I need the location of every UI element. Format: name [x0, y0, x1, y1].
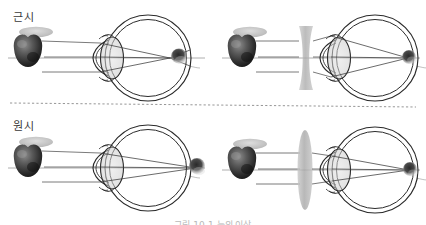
convex-lens	[298, 130, 313, 210]
figure-background	[0, 0, 426, 225]
label-myopia: 근시	[13, 8, 34, 24]
eye-refraction-figure	[0, 0, 426, 225]
figure-caption: 그림 10-1 눈의 이상	[0, 218, 426, 225]
label-hyperopia: 원시	[13, 117, 34, 133]
